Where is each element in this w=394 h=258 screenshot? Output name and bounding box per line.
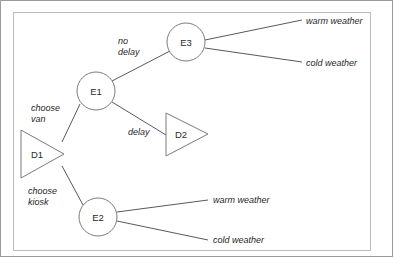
diagram-canvas: D1 D2 E1 E2 E3 choose van choose kiosk [0,0,394,258]
edge-e3-cold-weather [205,48,302,62]
edge-label-delay: delay [128,127,150,137]
edge-label-group: choose van choose kiosk no delay delay [28,36,150,207]
node-d2: D2 [166,113,208,156]
edge-e3-warm-weather [205,20,302,40]
outcome-label-cold-weather-top: cold weather [306,58,358,68]
edge-d1-e2 [62,166,83,205]
node-label-e3: E3 [180,37,192,48]
node-e1: E1 [77,72,115,110]
edge-label-choose-kiosk: choose kiosk [28,186,60,207]
edge-label-no-delay: no delay [118,36,140,57]
outcome-label-warm-weather-bottom: warm weather [213,195,271,205]
edge-e2-cold-weather [117,221,208,240]
node-e2: E2 [79,198,117,236]
outcome-label-group: warm weather cold weather warm weather c… [213,16,364,245]
outcome-label-warm-weather-top: warm weather [306,16,364,26]
node-d1: D1 [21,130,64,178]
edge-e2-warm-weather [117,200,208,212]
node-label-d1: D1 [31,149,43,160]
outcome-label-cold-weather-bottom: cold weather [213,235,265,245]
edge-label-choose-van: choose van [31,103,63,124]
node-label-e2: E2 [92,212,104,223]
decision-tree-diagram: D1 D2 E1 E2 E3 choose van choose kiosk [0,0,394,258]
node-label-d2: D2 [175,129,187,140]
node-label-e1: E1 [90,86,102,97]
node-e3: E3 [167,23,205,61]
edge-d1-e1 [62,104,80,142]
